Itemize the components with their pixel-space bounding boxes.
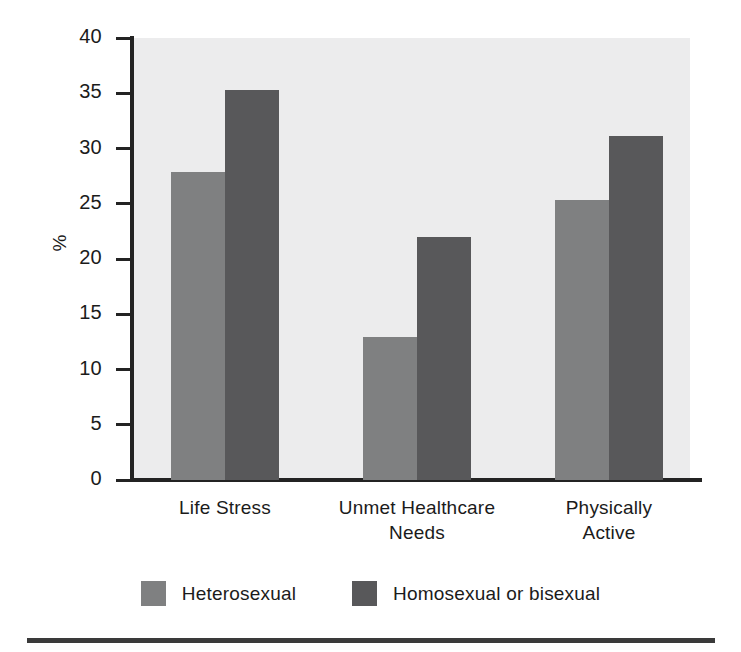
y-axis-tick-label-text: 20 [56,246,102,269]
y-axis-tick-mark [116,368,131,371]
bars-layer [133,38,690,480]
bar-heterosexual [171,172,225,480]
y-axis-tick-label: 0 [56,467,102,491]
legend-label: Heterosexual [182,583,296,605]
y-axis-tick-label-text: 5 [56,412,102,435]
bar-heterosexual [555,200,609,480]
y-axis-tick-label-text: 40 [56,25,102,48]
chart-legend: HeterosexualHomosexual or bisexual [0,581,741,606]
y-axis-tick-mark [116,423,131,426]
y-axis-tick-label-text: 15 [56,301,102,324]
bar-homosexual-or-bisexual [417,237,471,480]
legend-label: Homosexual or bisexual [393,583,600,605]
legend-item: Homosexual or bisexual [352,581,600,606]
y-axis-tick-mark [116,479,131,482]
y-axis-tick-label-text: 0 [56,467,102,490]
x-axis-category-label-line: Active [479,520,739,545]
y-axis-tick-mark [116,37,131,40]
y-axis-tick-label: 20 [56,246,102,270]
y-axis-tick-mark [116,258,131,261]
x-axis-category-label: PhysicallyActive [479,495,739,545]
y-axis-tick-mark [116,202,131,205]
legend-swatch-light [141,581,166,606]
y-axis-tick-label: 10 [56,357,102,381]
y-axis-tick-label-text: 25 [56,191,102,214]
footer-rule [27,638,715,643]
y-axis-tick-label: 25 [56,191,102,215]
y-axis-tick-label: 5 [56,412,102,436]
bar-heterosexual [363,337,417,480]
y-axis-tick-label: 30 [56,136,102,160]
y-axis-tick-mark [116,147,131,150]
y-axis-tick-mark [116,92,131,95]
y-axis-tick-label-text: 30 [56,136,102,159]
bar-homosexual-or-bisexual [225,90,279,480]
y-axis-tick-mark [116,313,131,316]
y-axis-tick-label: 40 [56,25,102,49]
chart-figure: % 0510152025303540 Life StressUnmet Heal… [0,0,741,652]
y-axis-tick-label: 35 [56,80,102,104]
legend-item: Heterosexual [141,581,296,606]
y-axis-tick-label-text: 35 [56,80,102,103]
x-axis-category-label-line: Physically [479,495,739,520]
y-axis-tick-label-text: 10 [56,357,102,380]
y-axis-tick-label: 15 [56,301,102,325]
bar-homosexual-or-bisexual [609,136,663,480]
legend-swatch-dark [352,581,377,606]
